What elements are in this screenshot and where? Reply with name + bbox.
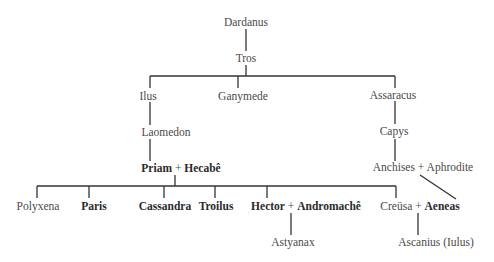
label-aphrodite: Aphrodite [427,161,474,173]
plus-sign: + [288,200,295,212]
label-hector: Hector [251,200,285,212]
node-paris: Paris [81,199,107,213]
label-ascanius: Ascanius (Iulus) [398,236,474,248]
node-creusa-aeneas: Creüsa + Aeneas [380,199,459,213]
node-astyanax: Astyanax [271,235,314,249]
node-ascanius: Ascanius (Iulus) [398,235,474,249]
label-hecabe: Hecabê [184,162,220,174]
tree-connector-lines [0,0,494,262]
node-cassandra: Cassandra [139,199,191,213]
label-polyxena: Polyxena [17,200,60,212]
node-ganymede: Ganymede [218,89,268,103]
label-anchises: Anchises [373,161,415,173]
label-troilus: Troilus [199,200,234,212]
plus-sign: + [418,161,425,173]
node-capys: Capys [380,124,409,138]
node-assaracus: Assaracus [370,88,417,102]
label-paris: Paris [81,200,107,212]
plus-sign: + [175,162,182,174]
label-andromache: Andromachê [297,200,361,212]
label-assaracus: Assaracus [370,89,417,101]
node-laomedon: Laomedon [141,125,190,139]
node-anchises-aphrodite: Anchises + Aphrodite [373,160,473,174]
label-tros: Tros [236,52,257,64]
label-laomedon: Laomedon [141,126,190,138]
node-polyxena: Polyxena [17,199,60,213]
node-ilus: Ilus [139,89,156,103]
label-cassandra: Cassandra [139,200,191,212]
family-tree-diagram: Dardanus Tros Ilus Ganymede Assaracus La… [0,0,494,262]
node-tros: Tros [236,51,257,65]
node-hector-andromache: Hector + Andromachê [251,199,361,213]
label-astyanax: Astyanax [271,236,314,248]
label-priam: Priam [141,162,172,174]
label-dardanus: Dardanus [224,16,268,28]
node-dardanus: Dardanus [224,15,268,29]
label-creusa: Creüsa [380,200,412,212]
label-ganymede: Ganymede [218,90,268,102]
node-troilus: Troilus [199,199,234,213]
node-priam-hecabe: Priam + Hecabê [141,161,220,175]
plus-sign: + [415,200,422,212]
label-aeneas: Aeneas [425,200,460,212]
label-capys: Capys [380,125,409,137]
label-ilus: Ilus [139,90,156,102]
